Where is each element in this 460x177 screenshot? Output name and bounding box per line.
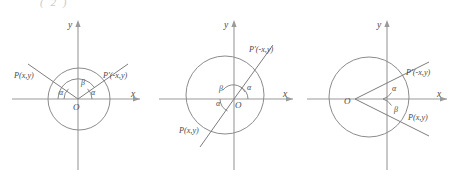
x-axis-label: x [130,89,136,99]
y-axis-arrowhead [231,20,236,27]
angle-alpha-label: α [392,84,397,93]
unit-circle [329,57,409,137]
origin-label: O [344,96,351,106]
trigonometry-figure-sheet: ( 2 ) x y O P(x,y) P'(-x,y) α α β [0,0,460,177]
point-p-label: P(x,y) [407,113,428,122]
point-p-label: P(x,y) [178,126,199,135]
diagram-symmetry-through-origin: x y O P(x,y) P'(-x,y) α α β [153,0,306,177]
origin-label: O [73,102,80,112]
angle-beta-label: β [393,105,398,114]
diagram-symmetry-about-y-axis: x y O P(x,y) P'(-x,y) α α β [0,0,153,177]
y-axis-arrowhead [384,20,389,27]
angle-beta-label: β [80,78,85,87]
point-p-label: P(x,y) [13,71,34,80]
point-p-prime-label: P'(-x,y) [248,45,274,54]
point-p-prime-label: P'(-x,y) [405,68,431,77]
x-axis-label: x [436,89,442,99]
angle-alpha-left-label: α [59,88,64,97]
x-axis-label: x [282,89,288,99]
ray-to-point-p-prime [78,64,128,99]
angle-alpha-right-label: α [91,88,96,97]
y-axis-label: y [376,20,382,30]
angle-alpha-right-label: α [247,83,252,92]
angle-beta-label: β [218,84,223,93]
origin-label: O [235,100,242,110]
y-axis-arrowhead [75,20,80,27]
y-axis-label: y [67,20,73,30]
y-axis-label: y [223,20,229,30]
point-p-prime-label: P'(-x,y) [102,71,128,80]
unit-circle [186,56,264,134]
diagram-symmetry-about-x-axis: x y O P(x,y) P'(-x,y) α β [307,0,460,177]
